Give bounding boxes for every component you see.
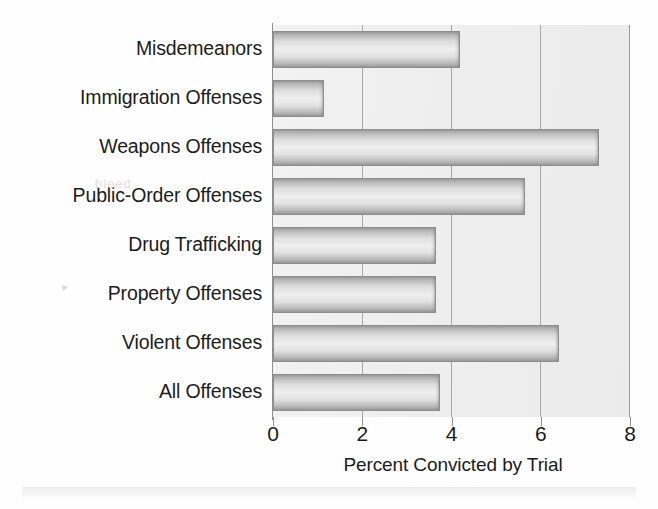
category-label: Violent Offenses xyxy=(0,331,262,354)
category-label: Property Offenses xyxy=(0,282,262,305)
bar xyxy=(273,129,599,166)
bar-row xyxy=(273,123,630,172)
category-label: All Offenses xyxy=(0,380,262,403)
bar xyxy=(273,374,440,411)
x-axis-tick-label: 0 xyxy=(253,422,293,446)
category-label: Immigration Offenses xyxy=(0,86,262,109)
category-label: Drug Trafficking xyxy=(0,233,262,256)
bar-row xyxy=(273,25,630,74)
y-axis-line xyxy=(272,23,273,420)
bar xyxy=(273,31,460,68)
x-axis-tick-label: 8 xyxy=(610,422,650,446)
bar-row xyxy=(273,270,630,319)
bar-row xyxy=(273,319,630,368)
x-axis-title: Percent Convicted by Trial xyxy=(273,454,633,476)
bar xyxy=(273,178,525,215)
bar-row xyxy=(273,172,630,221)
bar xyxy=(273,80,324,117)
category-label: Misdemeanors xyxy=(0,37,262,60)
bar-row xyxy=(273,368,630,417)
bar-chart-figure: MisdemeanorsImmigration OffensesWeapons … xyxy=(0,0,658,509)
scan-edge-band xyxy=(22,487,636,498)
category-label: Weapons Offenses xyxy=(0,135,262,158)
bar-row xyxy=(273,221,630,270)
bar-row xyxy=(273,74,630,123)
bar xyxy=(273,227,436,264)
page-bleed-ghost-text: bleed xyxy=(95,176,132,191)
x-axis-tick-label: 2 xyxy=(342,422,382,446)
bar xyxy=(273,325,559,362)
x-axis-tick-label: 6 xyxy=(521,422,561,446)
bar xyxy=(273,276,436,313)
plot-area xyxy=(273,25,630,417)
x-axis-tick-label: 4 xyxy=(432,422,472,446)
